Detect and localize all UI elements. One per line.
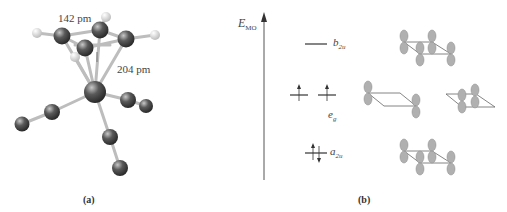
level-label-a2u: a2u: [330, 145, 343, 160]
energy-axis-label: EMO: [238, 16, 257, 32]
orbital-eg-1: [364, 81, 420, 118]
caption-b: (b): [358, 194, 370, 205]
level-label-eg: eg: [328, 108, 336, 123]
orbital-eg-2: [446, 84, 495, 113]
level-label-b2u: b2u: [333, 36, 346, 51]
orbital-a2u: [400, 139, 455, 175]
orbital-b2u: [400, 30, 455, 66]
axis-arrow-icon: [261, 12, 267, 22]
